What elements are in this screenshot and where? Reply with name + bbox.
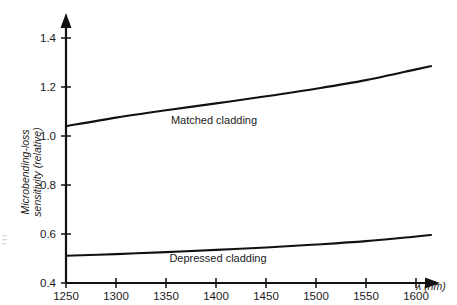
x-axis-title: λ (nm) — [415, 280, 446, 292]
y-tick-label: 0.6 — [40, 228, 56, 240]
x-tick-label: 1550 — [353, 290, 379, 302]
chart-container: 0.4 0.6 0.8 1.0 1.2 1.4 Microbending-los… — [0, 0, 457, 305]
y-tick-label: 1.4 — [40, 32, 57, 44]
x-tick-label: 1450 — [253, 290, 279, 302]
y-tick-label: 0.4 — [40, 277, 57, 289]
x-tick-label: 1250 — [53, 290, 79, 302]
y-axis-title-line1: Microbending-loss — [19, 129, 31, 215]
series-label-matched-cladding: Matched cladding — [171, 114, 257, 126]
x-tick-label: 1400 — [203, 290, 229, 302]
x-tick-label: 1300 — [103, 290, 129, 302]
microbending-loss-chart: 0.4 0.6 0.8 1.0 1.2 1.4 Microbending-los… — [0, 0, 457, 305]
series-label-depressed-cladding: Depressed cladding — [169, 252, 266, 264]
x-tick-label: 1500 — [303, 290, 329, 302]
y-tick-label: 1.2 — [40, 81, 56, 93]
x-tick-label: 1350 — [153, 290, 179, 302]
y-axis-title: Microbending-loss sensitivity (relative) — [19, 127, 43, 216]
y-axis-title-line2: sensitivity (relative) — [31, 127, 43, 216]
